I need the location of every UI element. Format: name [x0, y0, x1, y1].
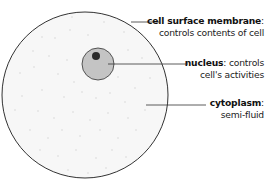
description-nucleus-line1: controls — [229, 57, 264, 68]
term-cell-surface-membrane: cell surface membrane — [147, 15, 261, 26]
term-nucleus: nucleus — [185, 57, 224, 68]
description-nucleus-line2: cell's activities — [185, 69, 264, 81]
description-cell-surface-membrane: controls contents of cell — [147, 27, 264, 39]
description-cytoplasm: semi-fluid — [210, 109, 264, 121]
label-nucleus: nucleus: controls cell's activities — [185, 57, 264, 81]
term-cytoplasm: cytoplasm — [210, 97, 261, 108]
cell-membrane — [2, 12, 168, 178]
label-cytoplasm: cytoplasm: semi-fluid — [210, 97, 264, 121]
nucleolus — [92, 52, 100, 60]
label-cell-surface-membrane: cell surface membrane: controls contents… — [147, 15, 264, 39]
